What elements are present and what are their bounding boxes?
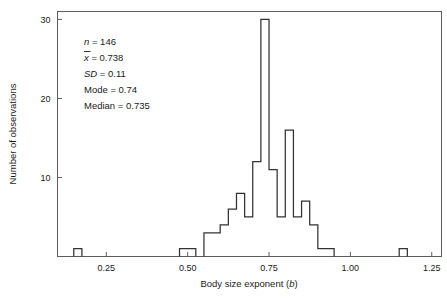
y-tick-labels: 102030	[40, 15, 50, 183]
statistics-annotation: n = 146 x = 0.738 SD = 0.11 Mode = 0.74 …	[83, 36, 150, 111]
plot-canvas: 0.250.500.751.001.25 102030 Body size ex…	[0, 0, 447, 301]
stat-median: Median = 0.735	[84, 100, 150, 111]
y-tick-label: 10	[40, 173, 50, 183]
histogram-bars	[74, 19, 408, 256]
x-tick-label: 0.50	[179, 263, 197, 273]
x-axis-title-main: Body size exponent (	[200, 278, 290, 289]
histogram-figure: 0.250.500.751.001.25 102030 Body size ex…	[0, 0, 447, 301]
stat-n: n = 146	[84, 36, 116, 47]
x-tick-label: 0.25	[98, 263, 116, 273]
stat-sd-value: = 0.11	[97, 68, 126, 79]
x-tick-label: 1.00	[342, 263, 360, 273]
x-tick-labels: 0.250.500.751.001.25	[98, 263, 441, 273]
stat-sd: SD = 0.11	[84, 68, 126, 79]
histogram-outline	[74, 19, 408, 256]
stat-mean: x = 0.738	[83, 52, 123, 63]
x-tick-label: 1.25	[423, 263, 441, 273]
x-tick-label: 0.75	[260, 263, 278, 273]
y-axis-title: Number of observations	[7, 83, 18, 184]
x-axis-title-close: )	[294, 278, 297, 289]
stat-sd-symbol: SD	[84, 68, 97, 79]
stat-n-value: = 146	[89, 36, 116, 47]
y-tick-label: 20	[40, 94, 50, 104]
y-tick-label: 30	[40, 15, 50, 25]
x-axis-title: Body size exponent (b)	[200, 278, 297, 289]
stat-mode: Mode = 0.74	[84, 84, 137, 95]
stat-mean-value: = 0.738	[89, 52, 124, 63]
plot-frame	[58, 12, 442, 257]
